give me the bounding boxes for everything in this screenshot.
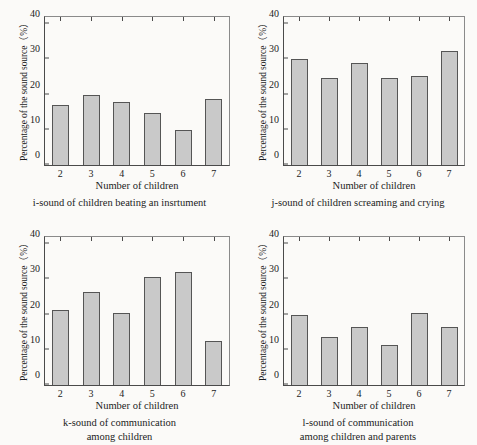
bar [291,59,308,165]
x-tick-label: 4 [344,168,374,179]
bar-item [76,17,107,165]
bar [441,327,458,385]
bar-item [137,237,168,385]
plot-area: 234567 010203040 [283,16,465,166]
y-tick-mark [284,278,288,279]
bar-item [45,17,76,165]
x-tick-mark [389,17,390,21]
bar [83,292,100,385]
y-tick-mark [284,93,288,94]
bar-item [374,237,404,385]
y-tick-mark [284,243,288,244]
x-tick-label: 6 [168,168,199,179]
x-tick-mark [152,237,153,241]
figure-panel-grid: Percentage of the sound source（%） 234567… [0,0,477,445]
bar-item [284,237,314,385]
bar [52,310,69,385]
y-tick-label: 0 [274,370,284,380]
y-tick-label: 0 [274,150,284,160]
y-tick-label: 40 [30,229,45,239]
x-tick-label: 2 [45,168,76,179]
y-tick-mark [284,164,288,165]
chart-panel-k: Percentage of the sound source（%） 234567… [0,222,239,445]
x-tick-label: 3 [314,388,344,399]
x-tick-mark [449,237,450,241]
bar-item [404,237,434,385]
y-tick-label: 0 [35,150,45,160]
y-tick-mark [284,23,288,24]
y-tick-mark [284,348,288,349]
y-tick-label: 20 [30,300,45,310]
x-tick-mark [419,17,420,21]
x-tick-label: 7 [198,168,229,179]
x-tick-labels: 234567 [284,385,464,399]
chart-panel-j: Percentage of the sound source（%） 234567… [239,0,477,222]
x-tick-mark [329,17,330,21]
bar-item [374,17,404,165]
x-axis-title: Number of children [283,180,465,191]
x-tick-mark [122,17,123,21]
bar [113,313,130,385]
y-tick-label: 30 [269,44,284,54]
x-tick-mark [214,17,215,21]
x-tick-label: 4 [106,168,137,179]
x-tick-mark [419,237,420,241]
panel-caption: l-sound of communicationamong children a… [239,416,477,443]
y-tick-label: 30 [30,264,45,274]
x-tick-label: 6 [404,168,434,179]
bar [83,95,100,165]
caption-line: j-sound of children screaming and crying [239,196,477,210]
y-tick-label: 10 [269,115,284,125]
bar [175,130,192,165]
y-tick-mark [284,313,288,314]
bar [321,337,338,385]
x-tick-mark [299,17,300,21]
bar-item [137,17,168,165]
bar-item [404,17,434,165]
x-tick-mark [183,17,184,21]
bar-item [168,237,199,385]
bar [411,313,428,385]
y-tick-mark [45,23,49,24]
x-tick-label: 2 [45,388,76,399]
x-tick-mark [214,237,215,241]
x-tick-label: 5 [374,168,404,179]
x-tick-labels: 234567 [284,165,464,179]
bar [351,327,368,385]
x-tick-mark [152,17,153,21]
x-tick-label: 5 [374,388,404,399]
bar-item [344,237,374,385]
bar [381,345,398,385]
x-tick-mark [91,17,92,21]
bar [205,341,222,385]
y-tick-mark [284,128,288,129]
x-tick-label: 3 [76,168,107,179]
caption-line: among children [0,430,239,444]
y-tick-label: 10 [30,335,45,345]
x-tick-label: 7 [434,168,464,179]
bar-item [314,17,344,165]
bar-item [284,17,314,165]
plot-area: 234567 010203040 [283,236,465,386]
x-tick-label: 6 [404,388,434,399]
bar-item [106,17,137,165]
x-tick-mark [60,237,61,241]
x-tick-label: 6 [168,388,199,399]
x-tick-label: 4 [106,388,137,399]
x-tick-mark [389,237,390,241]
bar-item [198,17,229,165]
bar [144,113,161,165]
x-axis-title: Number of children [44,180,230,191]
bar-item [434,17,464,165]
x-tick-label: 5 [137,388,168,399]
y-tick-label: 40 [269,9,284,19]
x-tick-mark [91,237,92,241]
y-tick-label: 10 [269,335,284,345]
bar-item [198,237,229,385]
y-tick-label: 0 [35,370,45,380]
bar-item [434,237,464,385]
bar-item [45,237,76,385]
x-tick-mark [122,237,123,241]
panel-caption: i-sound of children beating an insrtumen… [0,196,239,210]
y-tick-mark [284,384,288,385]
